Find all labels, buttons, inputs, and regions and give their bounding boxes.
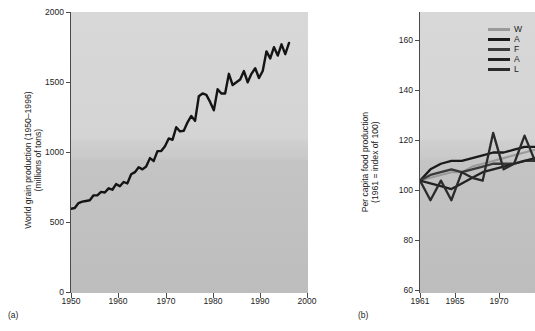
legend-item-0: W <box>488 26 522 32</box>
panel-b-ytick-140: 140 <box>389 86 413 95</box>
panel-b-xtick-1965: 1965 <box>435 297 475 306</box>
panel-b-y-axis-title-line1: Per capita food production <box>360 112 370 212</box>
panel-a-xtick-1970: 1970 <box>146 297 186 306</box>
panel-a-line-world-grain <box>71 43 289 209</box>
figure-container: World grain production (1950–1996) (mill… <box>0 0 535 331</box>
panel-a-tag: (a) <box>8 310 18 320</box>
panel-a-ytick-2000: 2000 <box>32 8 64 17</box>
panel-b-tag: (b) <box>358 310 368 320</box>
panel-a-xtick-1980: 1980 <box>193 297 233 306</box>
panel-a-plot-area <box>71 12 308 293</box>
panel-b-y-axis-title-line2: (1961 = index of 100) <box>370 121 380 202</box>
panel-b-legend: W A F A L <box>488 26 522 73</box>
panel-a-xtick-1960: 1960 <box>98 297 138 306</box>
panel-a-plot-svg <box>71 12 308 293</box>
panel-a-ytick-500: 500 <box>32 218 64 227</box>
panel-a: World grain production (1950–1996) (mill… <box>0 0 335 331</box>
panel-b-ytick-120: 120 <box>389 136 413 145</box>
legend-swatch-1 <box>488 38 510 41</box>
panel-a-xtick-2000: 2000 <box>287 297 327 306</box>
panel-b-ytick-160: 160 <box>389 36 413 45</box>
panel-b-xtick-1970: 1970 <box>479 297 519 306</box>
legend-swatch-0 <box>488 28 510 31</box>
panel-b-ytick-80: 80 <box>389 236 413 245</box>
legend-item-1: A <box>488 36 522 42</box>
panel-a-y-axis-title-line1: World grain production (1950–1996) <box>23 91 33 228</box>
legend-item-3: A <box>488 57 522 63</box>
panel-b-y-axis-title: Per capita food production (1961 = index… <box>360 92 380 232</box>
panel-b-ytick-100: 100 <box>389 186 413 195</box>
panel-a-ytick-1500: 1500 <box>32 78 64 87</box>
panel-b-series-group <box>420 133 535 200</box>
legend-item-2: F <box>488 46 522 52</box>
legend-swatch-2 <box>488 48 510 51</box>
legend-item-4: L <box>488 67 522 73</box>
panel-b-ytick-60: 60 <box>389 286 413 295</box>
legend-label-3: A <box>514 55 520 64</box>
panel-a-y-axis-title-line2: (millions of tons) <box>33 129 43 192</box>
panel-a-ytick-1000: 1000 <box>32 148 64 157</box>
panel-a-xtick-1990: 1990 <box>240 297 280 306</box>
panel-b-xtick-1961: 1961 <box>400 297 440 306</box>
legend-label-0: W <box>514 25 522 34</box>
panel-a-series-group <box>71 43 289 209</box>
legend-label-1: A <box>514 35 520 44</box>
panel-a-xtick-1950: 1950 <box>51 297 91 306</box>
legend-label-2: F <box>514 45 519 54</box>
legend-swatch-3 <box>488 58 510 61</box>
legend-swatch-4 <box>488 68 510 71</box>
panel-a-ytick-0: 0 <box>32 288 64 297</box>
legend-label-4: L <box>514 65 519 74</box>
panel-b: Per capita food production (1961 = index… <box>355 0 535 331</box>
